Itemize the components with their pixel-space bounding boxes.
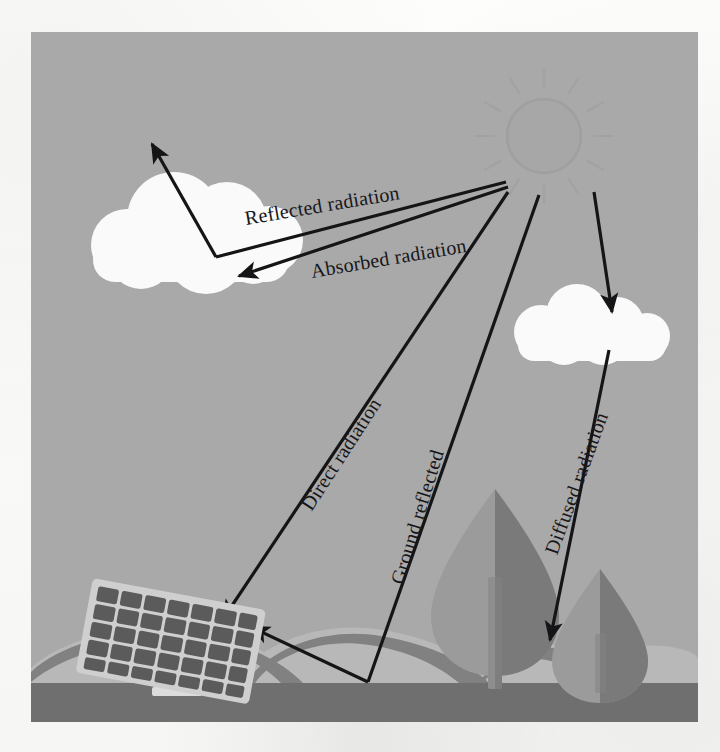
tree-large-trunk-shade <box>495 577 502 689</box>
solar-radiation-figure: Reflected radiation Absorbed radiation D… <box>31 32 698 722</box>
page-canvas: Reflected radiation Absorbed radiation D… <box>0 0 720 752</box>
tree-small-trunk-shade <box>600 634 606 693</box>
figure-artwork <box>31 32 698 722</box>
sun-disc <box>507 99 581 173</box>
